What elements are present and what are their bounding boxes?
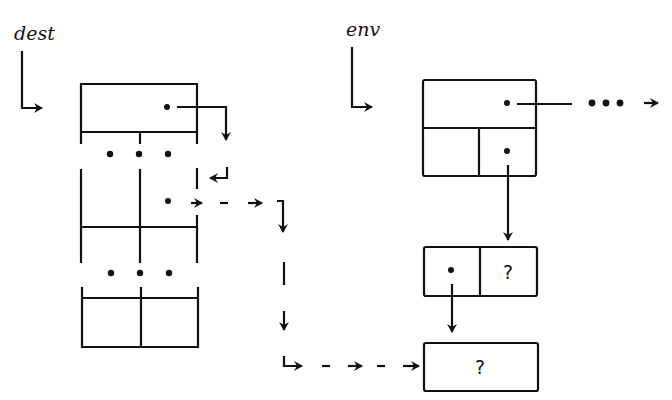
env-pointer-arrow [352,47,372,107]
dashed-path-to-value [191,201,419,366]
slot-pointer-dot [165,198,171,204]
env-frame [423,80,536,176]
value-cell-text: ? [475,356,485,378]
dest-record [81,84,198,347]
next-arrow [177,107,226,140]
pair-car-dot [448,267,454,273]
frame-cell-dot [504,148,510,154]
pointer-diagram: dest env [0,0,672,400]
frame-top-dot [504,100,510,106]
dest-label: dest [14,22,55,44]
env-label: env [346,18,380,40]
env-pair [424,247,537,296]
dest-pointer-arrow [22,51,42,108]
return-hook-arrow [210,167,227,178]
ellipsis-dots-2 [108,270,172,276]
pair-cdr-value: ? [503,261,513,283]
continuation-ellipsis [589,100,624,107]
ellipsis-dots-1 [107,151,171,157]
pointer-dot [164,104,170,110]
